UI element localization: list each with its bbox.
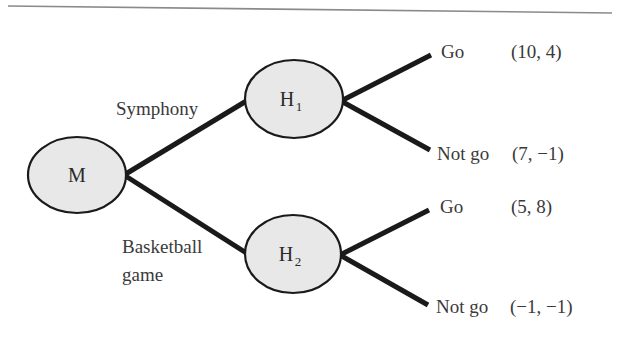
node-h1-subscript: 1 — [296, 99, 303, 114]
payoff-h1-go: (10, 4) — [511, 41, 562, 63]
edge-h1-go — [341, 55, 431, 101]
payoff-h2-not-go: (−1, −1) — [510, 296, 573, 318]
node-h2-subscript: 2 — [295, 254, 302, 269]
action-h1-not-go: Not go — [437, 143, 489, 164]
node-m: M — [28, 137, 126, 213]
edge-h1-not-go — [341, 101, 430, 150]
node-m-label: M — [68, 164, 86, 186]
top-rule — [8, 6, 612, 13]
branch-label-game: game — [122, 264, 163, 285]
branch-label-basketball: Basketball — [122, 236, 202, 257]
node-h1: H 1 — [245, 60, 343, 138]
payoff-h1-not-go: (7, −1) — [512, 143, 564, 165]
action-h2-not-go: Not go — [436, 296, 488, 317]
action-h2-go: Go — [440, 196, 463, 217]
edge-h2-not-go — [340, 255, 428, 305]
node-h2: H 2 — [245, 215, 341, 293]
edge-h2-go — [340, 210, 429, 255]
node-h1-label: H — [280, 88, 294, 110]
node-h2-label: H — [279, 243, 293, 265]
action-h1-go: Go — [441, 41, 464, 62]
payoff-h2-go: (5, 8) — [511, 196, 552, 218]
game-tree-diagram: M H 1 H 2 Symphony Basketball game Go No… — [0, 0, 617, 338]
branch-label-symphony: Symphony — [116, 98, 199, 119]
